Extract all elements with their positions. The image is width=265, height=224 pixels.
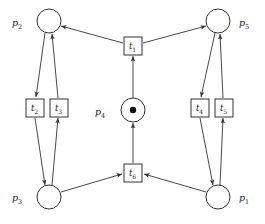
arc: [201, 33, 215, 97]
transition-t5[interactable]: t5: [215, 99, 233, 117]
petri-net-canvas: p2p5p4p3p1 t1t2t3t4t5t6: [0, 0, 265, 224]
arc: [220, 118, 223, 185]
place-p1[interactable]: p1: [206, 185, 249, 209]
place-label-p5: p5: [239, 17, 249, 31]
place-p3[interactable]: p3: [12, 185, 61, 209]
place-label-p3: p3: [12, 192, 22, 206]
transition-t4[interactable]: t4: [191, 99, 209, 117]
arc: [35, 118, 45, 185]
arc: [36, 33, 45, 97]
transition-t6[interactable]: t6: [124, 164, 142, 182]
place-p5[interactable]: p5: [206, 9, 249, 33]
arc: [143, 26, 206, 43]
place-p4[interactable]: p4: [95, 98, 145, 122]
place-circle-p3[interactable]: [37, 185, 61, 209]
arc: [52, 34, 58, 98]
place-circle-p2[interactable]: [37, 9, 61, 33]
token-dot-p4: [130, 107, 136, 113]
place-label-p2: p2: [12, 17, 22, 31]
arc: [52, 118, 58, 185]
transition-t1[interactable]: t1: [124, 37, 142, 55]
petri-net-diagram: p2p5p4p3p1 t1t2t3t4t5t6: [0, 0, 265, 224]
place-circle-p5[interactable]: [206, 9, 230, 33]
transition-t2[interactable]: t2: [26, 99, 44, 117]
arc: [144, 174, 206, 192]
arc: [220, 34, 223, 98]
arc: [61, 174, 122, 192]
transition-t3[interactable]: t3: [50, 99, 68, 117]
place-circle-p1[interactable]: [206, 185, 230, 209]
arc: [61, 26, 123, 43]
place-p2[interactable]: p2: [12, 9, 61, 33]
place-label-p4: p4: [95, 106, 105, 120]
arc: [200, 118, 213, 185]
place-label-p1: p1: [239, 192, 249, 206]
